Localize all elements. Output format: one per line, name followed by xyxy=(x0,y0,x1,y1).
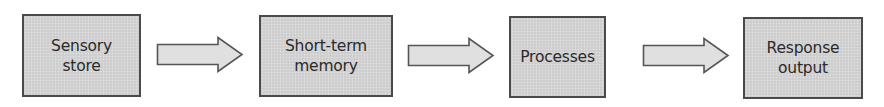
node-label: Short-term memory xyxy=(285,36,367,76)
flow-diagram: Sensory store Short-term memory Processe… xyxy=(0,0,884,107)
node-response-output: Response output xyxy=(743,17,863,99)
arrow-right-icon xyxy=(156,36,244,73)
node-sensory-store: Sensory store xyxy=(22,14,141,97)
arrow-right-icon xyxy=(642,37,730,74)
node-label: Response output xyxy=(767,38,840,78)
node-label: Sensory store xyxy=(51,36,112,76)
node-short-term-memory: Short-term memory xyxy=(259,15,393,97)
node-label: Processes xyxy=(520,47,595,67)
arrow-right-icon xyxy=(407,37,495,74)
node-processes: Processes xyxy=(509,16,606,98)
